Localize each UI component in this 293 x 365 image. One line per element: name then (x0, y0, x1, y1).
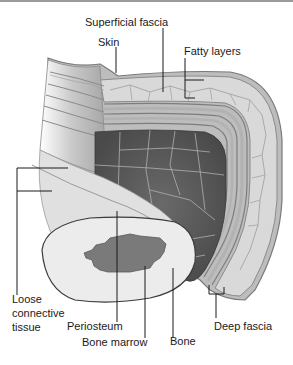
bone (42, 217, 195, 302)
label-loose-connective-3: tissue (12, 321, 41, 333)
label-deep-fascia: Deep fascia (214, 320, 273, 332)
label-loose-connective-2: connective (12, 307, 65, 319)
label-bone-marrow: Bone marrow (82, 336, 147, 348)
label-loose-connective-1: Loose (12, 293, 42, 305)
label-bone: Bone (170, 335, 196, 347)
label-fatty-layers: Fatty layers (184, 45, 241, 57)
anatomy-diagram: Superficial fascia Skin Fatty layers Loo… (0, 0, 293, 365)
label-superficial-fascia: Superficial fascia (85, 16, 169, 28)
label-periosteum: Periosteum (67, 320, 123, 332)
label-skin: Skin (98, 36, 119, 48)
